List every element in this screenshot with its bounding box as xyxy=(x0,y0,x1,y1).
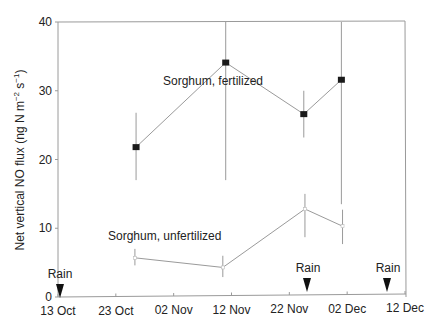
x-tick-label: 12 Dec xyxy=(386,301,424,315)
rain-label: Rain xyxy=(376,261,401,275)
y-axis-label: Net vertical NO flux (ng N m−2 s−1) xyxy=(12,70,27,251)
rain-label: Rain xyxy=(48,267,73,281)
chart: 010203040 13 Oct23 Oct02 Nov12 Nov22 Nov… xyxy=(0,0,442,333)
data-marker xyxy=(133,256,136,259)
annotations-layer: Sorghum, fertilizedSorghum, unfertilized… xyxy=(48,74,401,298)
rain-label: Rain xyxy=(296,261,321,275)
y-tick-label: 30 xyxy=(39,84,53,98)
rain-arrow-icon xyxy=(303,278,311,292)
label-sorghum-unfertilized: Sorghum, unfertilized xyxy=(108,229,221,243)
data-marker xyxy=(133,144,140,150)
data-marker xyxy=(222,60,229,66)
y-axis: 010203040 xyxy=(39,15,58,304)
x-tick-label: 02 Nov xyxy=(155,303,193,317)
label-sorghum-fertilized: Sorghum, fertilized xyxy=(163,74,263,88)
rain-arrow-icon xyxy=(56,284,64,298)
y-tick-label: 0 xyxy=(45,290,52,304)
data-marker xyxy=(338,77,345,83)
data-marker xyxy=(300,111,307,117)
plot-frame xyxy=(58,21,406,297)
x-tick-label: 13 Oct xyxy=(40,304,76,318)
data-marker xyxy=(341,225,344,228)
x-tick-label: 23 Oct xyxy=(98,304,134,318)
y-tick-label: 20 xyxy=(39,153,53,167)
y-tick-label: 10 xyxy=(39,221,53,235)
frame-top xyxy=(58,21,405,22)
x-tick-label: 02 Dec xyxy=(328,302,366,316)
x-tick-label: 12 Nov xyxy=(212,303,250,317)
series-fertilized xyxy=(133,22,345,204)
data-marker xyxy=(303,208,306,211)
data-marker xyxy=(221,266,224,269)
rain-arrow-icon xyxy=(383,278,391,292)
x-tick-label: 22 Nov xyxy=(270,302,308,316)
frame-right xyxy=(405,21,406,297)
y-tick-label: 40 xyxy=(39,15,53,29)
